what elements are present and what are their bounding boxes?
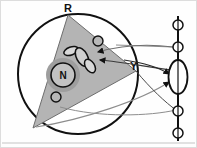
granule-upper-right-icon	[93, 36, 103, 46]
cell-diagram-svg: N R Y	[0, 0, 197, 148]
figure-root: N R Y	[0, 0, 197, 148]
nucleus-label: N	[59, 70, 66, 81]
granule-lower-left-icon	[51, 92, 61, 102]
region-r-label: R	[64, 2, 72, 14]
